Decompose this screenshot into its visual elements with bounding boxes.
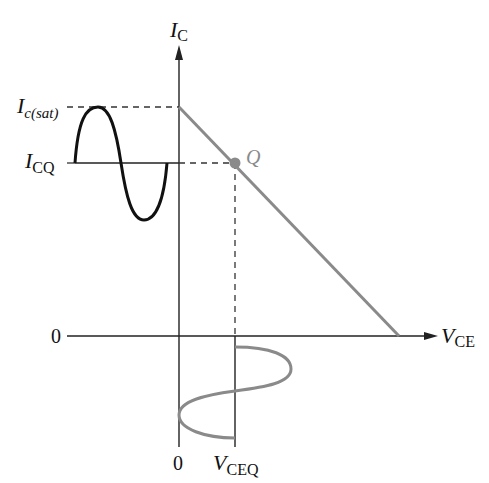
x-zero-label: 0 [173,452,183,474]
diagram-svg: IC VCE Ic(sat) ICQ 0 0 VCEQ Q [0,0,489,483]
y-axis-arrow-icon [175,45,183,60]
x-axis-arrow-icon [424,332,438,340]
dc-load-line [179,107,399,336]
x-axis-label: VCE [441,323,475,350]
y-zero-label: 0 [51,325,61,347]
vceq-label: VCEQ [213,450,259,478]
ic-sat-label: Ic(sat) [16,93,58,122]
load-line-diagram: IC VCE Ic(sat) ICQ 0 0 VCEQ Q [0,0,489,483]
q-point [230,158,241,169]
q-point-label: Q [246,146,261,168]
y-axis-label: IC [169,17,188,44]
icq-label: ICQ [24,148,55,176]
